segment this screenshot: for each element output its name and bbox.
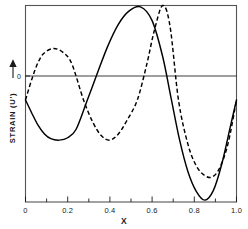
dashed-strain-curve (26, 5, 237, 177)
x-axis-tick-label: 0.2 (62, 206, 73, 215)
y-axis-zero-label: 0 (17, 73, 21, 80)
x-axis-tick-label: 1.0 (231, 206, 242, 215)
y-axis-arrow-icon (10, 61, 16, 79)
strain-vs-x-plot: 00.20.40.60.81.0 0 STRAIN (U') X (0, 0, 248, 229)
x-axis-title: X (121, 216, 127, 226)
x-axis-tick-label: 0.6 (147, 206, 158, 215)
x-axis-tick-label: 0 (23, 206, 27, 215)
x-axis-tick-label: 0.8 (189, 206, 200, 215)
chart-figure: 00.20.40.60.81.0 0 STRAIN (U') X (0, 0, 248, 229)
y-axis-title: STRAIN (U') (8, 93, 17, 143)
solid-strain-curve (26, 6, 237, 200)
x-axis-tick-labels: 00.20.40.60.81.0 (23, 206, 242, 215)
plot-frame (26, 6, 237, 203)
x-axis-tick-label: 0.4 (104, 206, 115, 215)
